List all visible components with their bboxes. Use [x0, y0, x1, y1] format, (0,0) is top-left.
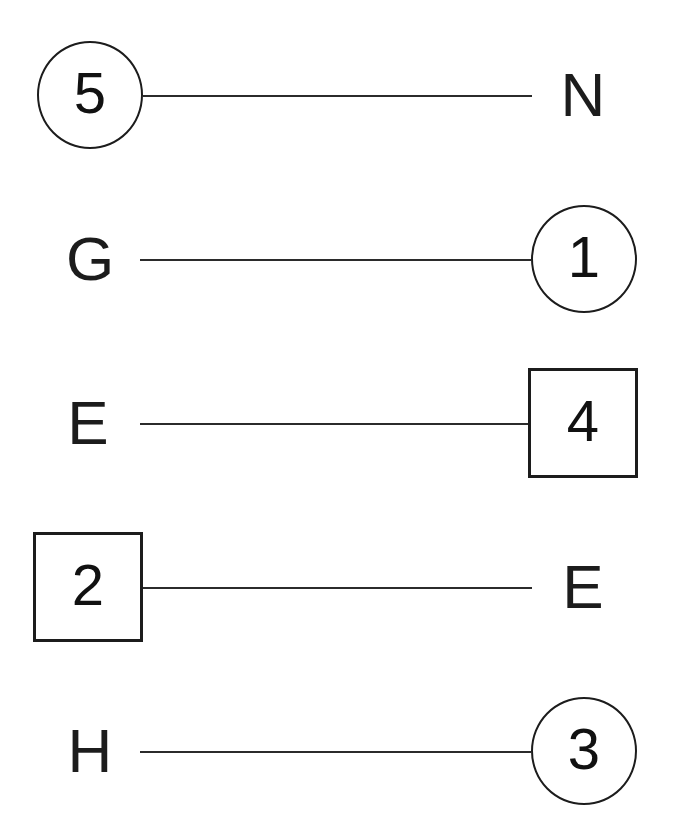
- connector-line-4: [143, 587, 532, 589]
- diagram-row-5: H 3: [0, 0, 673, 164]
- letter-label-g[interactable]: G: [66, 228, 114, 290]
- node-label: 2: [72, 556, 104, 614]
- diagram-canvas: 5 N G 1 E 4 2 E H 3: [0, 0, 673, 835]
- letter-label-h[interactable]: H: [66, 720, 114, 782]
- node-circle-1[interactable]: 1: [531, 205, 637, 313]
- letter-label-e-right[interactable]: E: [561, 556, 605, 618]
- letter-label-e-left[interactable]: E: [66, 392, 110, 454]
- node-label: 3: [568, 720, 600, 778]
- connector-line-5: [140, 751, 531, 753]
- node-circle-3[interactable]: 3: [531, 697, 637, 805]
- node-label: 1: [568, 228, 600, 286]
- connector-line-2: [140, 259, 531, 261]
- node-label: 4: [567, 392, 599, 450]
- connector-line-3: [140, 423, 528, 425]
- node-square-4[interactable]: 4: [528, 368, 638, 478]
- node-square-2[interactable]: 2: [33, 532, 143, 642]
